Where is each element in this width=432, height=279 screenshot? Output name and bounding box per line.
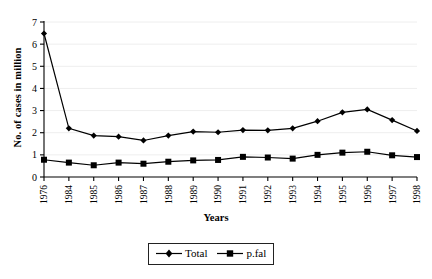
svg-text:1997: 1997	[388, 185, 398, 204]
data-point	[389, 152, 395, 158]
svg-text:4: 4	[32, 83, 37, 94]
svg-text:1994: 1994	[313, 185, 323, 204]
data-point	[91, 162, 97, 168]
data-point	[66, 160, 72, 166]
data-point	[165, 132, 171, 138]
data-point	[389, 117, 395, 123]
svg-text:5: 5	[32, 61, 37, 72]
data-point	[165, 159, 171, 165]
legend-item-pfal: p.fal	[217, 248, 266, 259]
data-point	[41, 157, 47, 163]
x-axis-ticks: 1976198419851986198719881989199019911992…	[39, 177, 422, 204]
svg-text:1986: 1986	[114, 185, 124, 204]
plot-area: 01234567 1976198419851986198719881989199…	[0, 0, 432, 279]
svg-text:0: 0	[32, 172, 37, 183]
legend-marker-diamond-icon	[156, 248, 182, 259]
svg-text:1991: 1991	[238, 185, 248, 204]
svg-text:7: 7	[32, 17, 37, 28]
series-total	[41, 30, 420, 143]
svg-text:2: 2	[32, 127, 37, 138]
svg-text:6: 6	[32, 39, 37, 50]
legend-label-total: Total	[185, 248, 207, 259]
data-point	[66, 125, 72, 131]
svg-text:3: 3	[32, 105, 37, 116]
svg-text:1996: 1996	[363, 185, 373, 204]
data-point	[314, 118, 320, 124]
data-point	[116, 160, 122, 166]
series-p-fal	[41, 149, 420, 169]
data-point	[190, 157, 196, 163]
svg-text:1992: 1992	[263, 185, 273, 204]
svg-text:1988: 1988	[164, 185, 174, 204]
chart-legend: Total p.fal	[148, 243, 274, 265]
data-point	[290, 156, 296, 162]
legend-label-pfal: p.fal	[246, 248, 266, 259]
data-point	[339, 150, 345, 156]
data-point	[140, 137, 146, 143]
data-point	[414, 154, 420, 160]
data-point	[265, 155, 271, 161]
x-axis-title: Years	[0, 212, 432, 223]
svg-text:1985: 1985	[89, 185, 99, 204]
svg-text:1990: 1990	[213, 185, 223, 204]
data-point	[116, 134, 122, 140]
legend-marker-square-icon	[217, 248, 243, 259]
svg-text:1984: 1984	[64, 185, 74, 204]
svg-text:1993: 1993	[288, 185, 298, 204]
chart-container: No. of cases in million 01234567 1976198…	[0, 0, 432, 279]
legend-item-total: Total	[156, 248, 207, 259]
data-point	[215, 129, 221, 135]
svg-text:1987: 1987	[139, 185, 149, 204]
data-point	[364, 149, 370, 155]
data-point	[41, 30, 47, 36]
data-point	[91, 132, 97, 138]
data-point	[190, 129, 196, 135]
data-point	[215, 157, 221, 163]
data-point	[140, 161, 146, 167]
svg-text:1976: 1976	[39, 185, 49, 204]
data-point	[364, 106, 370, 112]
data-series-layer	[41, 30, 420, 168]
gridlines	[44, 22, 417, 155]
data-point	[315, 152, 321, 158]
svg-text:1998: 1998	[412, 185, 422, 204]
svg-text:1989: 1989	[189, 185, 199, 204]
svg-text:1995: 1995	[338, 185, 348, 204]
svg-text:1: 1	[32, 149, 37, 160]
data-point	[240, 154, 246, 160]
data-point	[290, 125, 296, 131]
